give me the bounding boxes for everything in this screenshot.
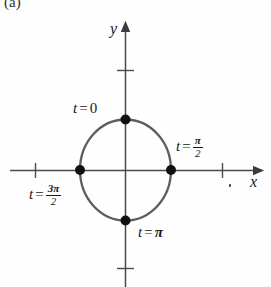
t-3pi-over-2-point — [75, 165, 85, 175]
label-t-equals-pi: t=π — [138, 225, 163, 240]
fraction-3pi-over-2-numerator: 3π — [46, 183, 62, 196]
label-t-equals-0-value: 0 — [90, 100, 98, 116]
label-t-equals-0-operator: = — [77, 100, 89, 116]
label-t-equals-pi-over-2: t=π2 — [176, 136, 203, 160]
y-axis-label: y — [110, 20, 117, 38]
fraction-3pi-over-2: 3π2 — [46, 183, 62, 207]
panel-tag: (a) — [4, 0, 21, 11]
fraction-pi-over-2: π2 — [193, 135, 203, 159]
label-t-equals-0: t=0 — [73, 101, 97, 116]
label-t-equals-3pi-over-2: t=3π2 — [29, 184, 61, 208]
x-axis-label: x — [250, 173, 257, 191]
fraction-pi-over-2-denominator: 2 — [193, 148, 203, 160]
fraction-pi-over-2-numerator: π — [193, 135, 203, 148]
print-speck — [229, 184, 231, 187]
parametric-circle-figure: (a) y x t=0 t=π2 t=π t=3π2 — [0, 0, 271, 287]
label-t-equals-pi-operator: = — [142, 224, 154, 240]
t-pi-point — [121, 216, 131, 226]
fraction-3pi-over-2-denominator: 2 — [46, 196, 62, 208]
label-t-equals-pi-value: π — [155, 224, 163, 240]
label-t-equals-pi-over-2-operator: = — [180, 138, 192, 154]
label-t-equals-3pi-over-2-operator: = — [33, 186, 45, 202]
figure-canvas — [0, 0, 271, 287]
t-pi-over-2-point — [166, 165, 176, 175]
t-zero-point — [121, 115, 131, 125]
